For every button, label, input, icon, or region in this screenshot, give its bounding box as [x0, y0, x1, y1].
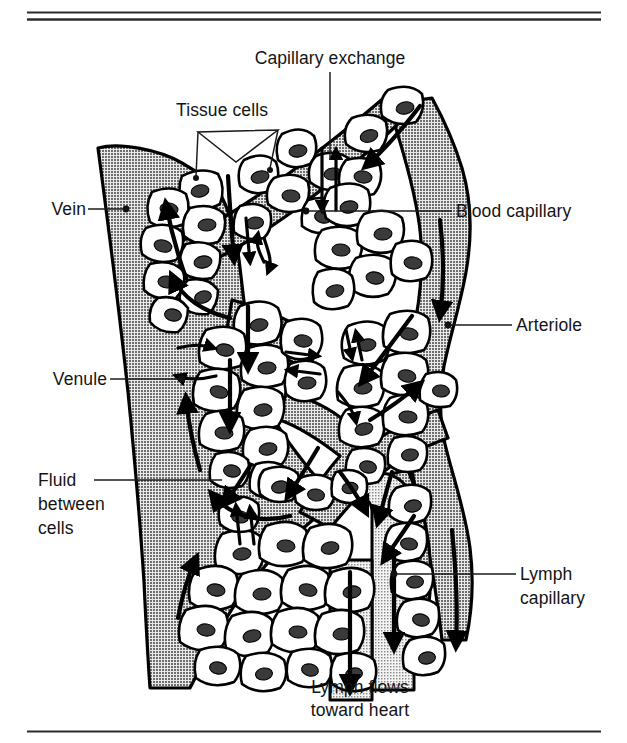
caption-line1: Lymph flows	[311, 677, 409, 697]
label-capillary-exchange: Capillary exchange	[255, 48, 406, 68]
label-venule: Venule	[53, 369, 107, 389]
label-fluid-between-cells-line2: between	[38, 494, 105, 514]
label-lymph-capillary-line2: capillary	[520, 588, 585, 608]
caption-line2: toward heart	[311, 700, 410, 720]
label-blood-capillary: Blood capillary	[456, 201, 571, 221]
figure-page: Capillary exchange Tissue cells Vein Ven…	[0, 0, 627, 743]
label-lymph-capillary-line1: Lymph	[520, 564, 572, 584]
capillary-exchange-diagram: Capillary exchange Tissue cells Vein Ven…	[0, 0, 627, 743]
label-tissue-cells: Tissue cells	[176, 100, 268, 120]
label-vein: Vein	[52, 199, 86, 219]
label-fluid-between-cells-line1: Fluid	[38, 470, 76, 490]
label-arteriole: Arteriole	[516, 315, 582, 335]
label-fluid-between-cells-line3: cells	[38, 518, 74, 538]
